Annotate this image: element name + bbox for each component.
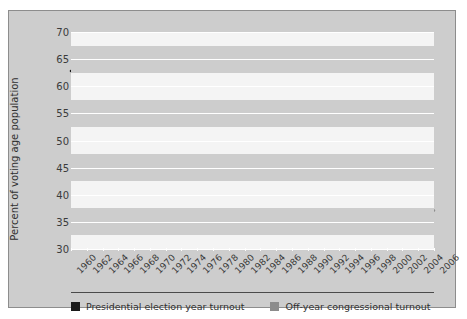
gridline — [71, 59, 434, 60]
x-axis-tick-mark — [71, 248, 72, 251]
x-axis-ticks: 1960196219641966196819701972197419761978… — [71, 251, 434, 293]
y-axis-tick-label: 30 — [56, 244, 69, 255]
x-axis-tick-mark — [87, 248, 88, 251]
y-axis-tick-label: 35 — [56, 216, 69, 227]
y-axis-tick-label: 45 — [56, 162, 69, 173]
x-axis-tick-mark — [134, 248, 135, 251]
y-axis-title: Percent of voting age population — [7, 11, 21, 319]
background-band — [71, 235, 434, 249]
gridline — [71, 195, 434, 196]
x-axis-tick-mark — [213, 248, 214, 251]
x-axis-tick-mark — [355, 248, 356, 251]
x-axis-tick-mark — [166, 248, 167, 251]
x-axis-tick-mark — [260, 248, 261, 251]
x-axis-tick-mark — [181, 248, 182, 251]
x-axis-tick-mark — [308, 248, 309, 251]
background-band — [71, 32, 434, 46]
legend-divider — [71, 292, 434, 293]
plot-area — [71, 32, 434, 249]
x-axis-tick-mark — [229, 248, 230, 251]
x-axis-tick-mark — [371, 248, 372, 251]
x-axis-tick-mark — [339, 248, 340, 251]
x-axis-tick-mark — [292, 248, 293, 251]
legend-item[interactable]: Presidential election year turnout — [71, 301, 244, 312]
x-axis-tick-mark — [103, 248, 104, 251]
gridline — [71, 113, 434, 114]
gridline — [71, 249, 434, 250]
legend-label: Presidential election year turnout — [86, 301, 244, 312]
x-axis-tick-mark — [324, 248, 325, 251]
legend-item[interactable]: Off-year congressional turnout — [270, 301, 430, 312]
x-axis-tick-mark — [402, 248, 403, 251]
y-axis-tick-label: 70 — [56, 27, 69, 38]
x-axis-tick-mark — [197, 248, 198, 251]
legend-swatch — [71, 302, 80, 311]
x-axis-tick-mark — [245, 248, 246, 251]
x-axis-tick-mark — [118, 248, 119, 251]
chart-panel: Percent of voting age population 3035404… — [8, 10, 456, 308]
x-axis-tick-mark — [418, 248, 419, 251]
y-axis-tick-label: 60 — [56, 81, 69, 92]
y-axis-tick-label: 65 — [56, 54, 69, 65]
gridline — [71, 168, 434, 169]
gridline — [71, 86, 434, 87]
gridline — [71, 32, 434, 33]
y-axis-tick-label: 50 — [56, 135, 69, 146]
y-axis-tick-label: 40 — [56, 189, 69, 200]
x-axis-tick-mark — [387, 248, 388, 251]
gridline — [71, 141, 434, 142]
x-axis-tick-mark — [276, 248, 277, 251]
legend-label: Off-year congressional turnout — [285, 301, 430, 312]
gridline — [71, 222, 434, 223]
chart-legend: Presidential election year turnoutOff-ye… — [71, 298, 434, 314]
x-axis-tick-mark — [150, 248, 151, 251]
y-axis-tick-label: 55 — [56, 108, 69, 119]
x-axis-tick-mark — [434, 248, 435, 251]
y-axis-title-label: Percent of voting age population — [9, 77, 20, 240]
y-axis-ticks: 303540455055606570 — [39, 11, 69, 319]
legend-swatch — [270, 302, 279, 311]
